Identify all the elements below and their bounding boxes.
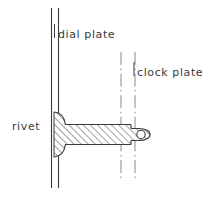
diagram-canvas: dial plate clock plate rivet — [0, 0, 209, 199]
rivet-diagram: dial plate clock plate rivet — [0, 0, 209, 199]
dial-plate-label: dial plate — [58, 28, 115, 41]
rivet-label: rivet — [12, 120, 40, 133]
clock-plate-label: clock plate — [137, 66, 203, 79]
rivet-tang-hole — [137, 130, 145, 138]
